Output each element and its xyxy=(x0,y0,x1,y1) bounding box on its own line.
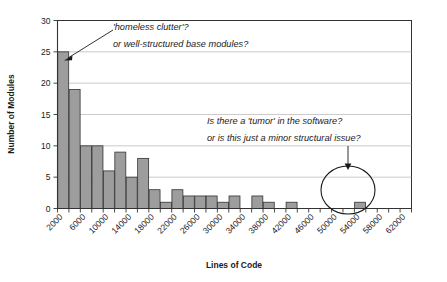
bar xyxy=(218,202,229,208)
bar xyxy=(355,202,366,208)
bar xyxy=(92,146,103,209)
bar xyxy=(161,202,172,208)
bar xyxy=(103,171,114,209)
bar xyxy=(263,202,274,208)
x-axis-title: Lines of Code xyxy=(206,260,262,270)
bar xyxy=(206,196,217,209)
bar xyxy=(229,196,240,209)
annotation-tumor-line-2: or is this just a minor structural issue… xyxy=(207,133,362,143)
bar xyxy=(69,89,80,208)
annotation-homeless-line-2: or well-structured base modules? xyxy=(113,39,249,49)
y-axis-tick-label: 10 xyxy=(41,141,51,151)
bar xyxy=(172,190,183,209)
y-axis-tick-label: 25 xyxy=(41,47,51,57)
annotation-tumor-line-1: Is there a 'tumor' in the software? xyxy=(207,116,343,126)
bar xyxy=(81,146,92,209)
y-axis-tick-label: 5 xyxy=(46,172,51,182)
bar xyxy=(126,177,137,208)
bar xyxy=(115,152,126,208)
y-axis-tick-label: 0 xyxy=(46,204,51,214)
y-axis-title: Number of Modules xyxy=(6,74,16,154)
chart-container: 051015202530 200060001000014000180002200… xyxy=(0,0,447,282)
annotation-homeless-line-1: 'homeless clutter'? xyxy=(113,22,189,32)
bar xyxy=(286,202,297,208)
y-axis-tick-label: 20 xyxy=(41,78,51,88)
bar xyxy=(252,196,263,209)
histogram-lines-of-code: 051015202530 200060001000014000180002200… xyxy=(0,0,447,282)
bar xyxy=(138,158,149,208)
y-axis-tick-label: 15 xyxy=(41,110,51,120)
bar xyxy=(195,196,206,209)
y-axis-tick-label: 30 xyxy=(41,16,51,26)
bar xyxy=(58,52,69,209)
bar xyxy=(183,196,194,209)
bar xyxy=(149,190,160,209)
